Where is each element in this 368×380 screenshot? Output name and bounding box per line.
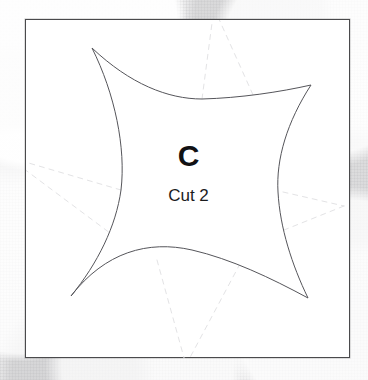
construction-line-bottom-left — [157, 260, 186, 359]
pattern-template-card: C Cut 2 — [25, 19, 350, 358]
construction-line-left-upper — [26, 157, 121, 190]
construction-line-top-right — [214, 20, 258, 106]
cut-line-outline — [71, 48, 311, 298]
pattern-shape-drawing — [26, 20, 351, 359]
construction-line-left-lower — [26, 157, 114, 236]
construction-line-right-upper — [283, 192, 344, 206]
construction-line-top-left — [202, 20, 214, 99]
scanned-paper-background: C Cut 2 — [0, 0, 368, 380]
construction-line-bottom-right — [186, 262, 241, 359]
construction-line-right-lower — [274, 206, 344, 234]
